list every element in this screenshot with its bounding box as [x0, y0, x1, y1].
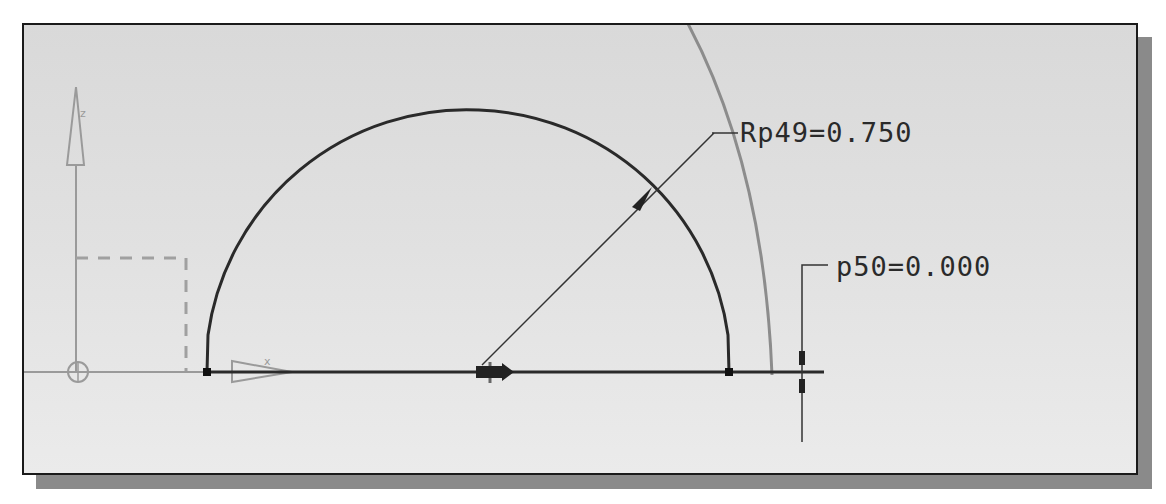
semicircle-arc[interactable] — [207, 110, 729, 372]
sketch-canvas[interactable]: z x Rp49=0.750 p50=0.000 — [24, 25, 1138, 475]
reference-arc[interactable] — [686, 25, 772, 375]
vertical-dim-arrow-top-icon — [799, 351, 805, 365]
z-axis-label: z — [80, 107, 86, 120]
radius-dimension-label[interactable]: Rp49=0.750 — [740, 117, 913, 148]
center-marker-icon[interactable] — [476, 363, 514, 381]
radius-leader-line — [482, 133, 714, 365]
construction-rectangle — [76, 258, 186, 372]
arc-endpoint-right[interactable] — [725, 368, 733, 376]
vertical-dimension-leader — [802, 265, 828, 442]
vertical-dimension-label[interactable]: p50=0.000 — [836, 251, 991, 282]
vertical-dim-arrow-bottom-icon — [799, 379, 805, 393]
z-axis-arrow-icon — [67, 87, 84, 165]
sketch-viewport[interactable]: z x Rp49=0.750 p50=0.000 — [22, 23, 1138, 475]
x-axis-label: x — [264, 355, 271, 368]
arc-endpoint-left[interactable] — [203, 368, 211, 376]
